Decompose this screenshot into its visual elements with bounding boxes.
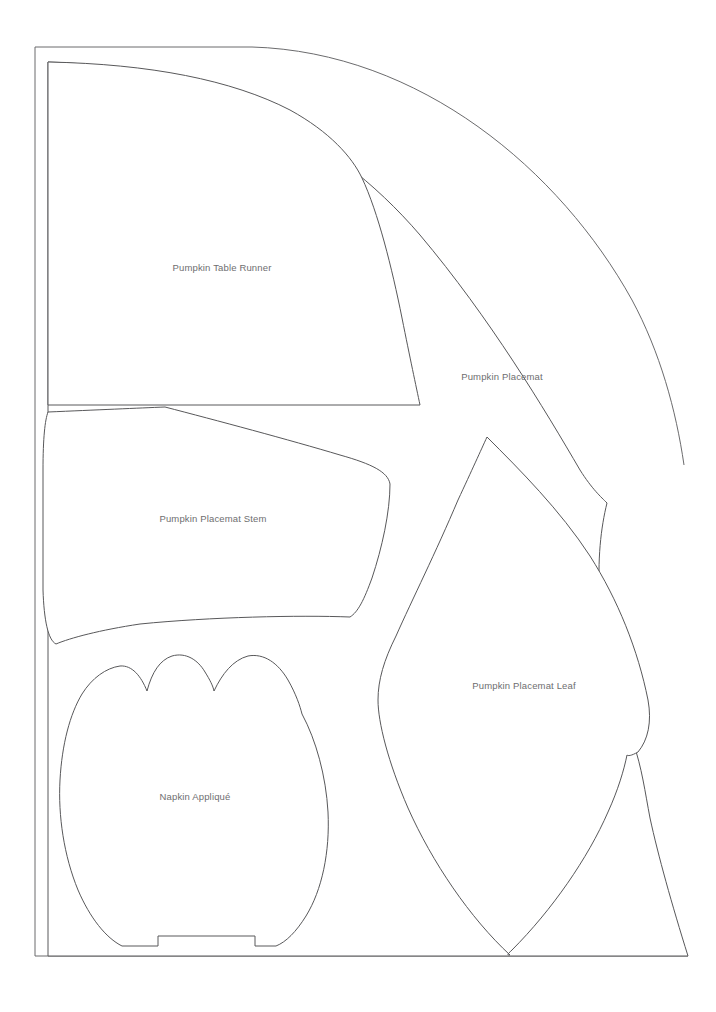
pattern-sheet: Pumpkin Table Runner Pumpkin Placemat Pu… [0, 0, 716, 1012]
piece-label-napkin-applique: Napkin Appliqué [160, 791, 231, 802]
pattern-drawing: Pumpkin Table Runner Pumpkin Placemat Pu… [0, 0, 716, 1012]
piece-label-pumpkin-placemat-stem: Pumpkin Placemat Stem [159, 513, 266, 524]
piece-label-pumpkin-placemat-leaf: Pumpkin Placemat Leaf [472, 680, 576, 691]
piece-shape-pumpkin-table-runner[interactable] [48, 62, 420, 405]
piece-label-pumpkin-table-runner: Pumpkin Table Runner [173, 262, 272, 273]
piece-label-pumpkin-placemat: Pumpkin Placemat [461, 371, 543, 382]
